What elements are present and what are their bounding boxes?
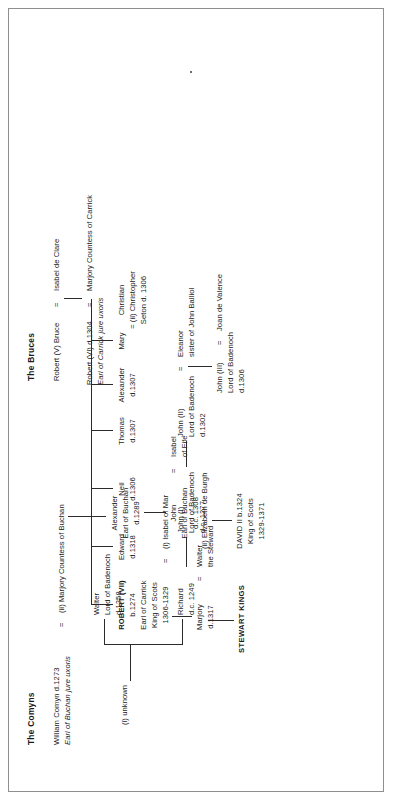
bruces-gen1-marriage-sign: =	[52, 302, 61, 307]
bruces-walter-steward-name: Walter	[195, 545, 204, 567]
comyns-buchan-descent-line	[68, 516, 106, 517]
comyns-john3-death: d.1306	[237, 369, 246, 393]
stewart-kings-label: STEWART KINGS	[237, 585, 246, 653]
comyns-john3-style: Lord of Badenoch	[226, 332, 235, 393]
bruces-marjory-marriage-sign: =	[195, 576, 204, 581]
bruces-child-branch-christian	[91, 340, 113, 341]
bruces-christian-marriage-note-2: Seton d. 1306	[139, 267, 148, 333]
bruces-gen2-name: Robert (VI) d.1304	[85, 321, 94, 385]
bruces-walter-steward-style: the Steward	[206, 526, 215, 567]
rotated-chart-container: The Comyns William Comyn d.1273 Earl of …	[12, 15, 382, 785]
bruces-heading: The Bruces	[26, 333, 36, 381]
bruces-david2-descent-line	[212, 520, 232, 521]
comyns-wife-2-label: (ii) Marjory Countess of Buchan	[57, 504, 66, 613]
comyns-john2-death: d.1302	[198, 413, 207, 437]
bruces-stewart-descent-line	[208, 620, 234, 621]
comyns-patriarch-marriage-sign: =	[57, 622, 66, 627]
bruces-marjory-death: d.1317	[206, 585, 215, 649]
bruces-robert7-name: ROBERT (VII)	[117, 565, 126, 645]
comyns-patriarch-style: Earl of Buchan jure uxoris	[63, 656, 72, 745]
bruces-child-branch-robert	[91, 604, 113, 605]
comyns-john2-to-john3-line	[188, 366, 212, 367]
bruces-robert7-title: King of Scots	[150, 565, 159, 645]
bruces-gen2-marriage-sign: =	[85, 302, 94, 307]
comyns-walter-style: Lord of Badenoch	[103, 554, 112, 615]
comyns-john2-spouse-name: Eleanor	[176, 330, 185, 357]
bruces-gen2-spouse: Marjory Countess of Carrick	[85, 195, 94, 291]
bruces-marjory-descent-line	[172, 616, 192, 617]
bruces-marjory-name: Marjory	[195, 585, 204, 649]
bruces-child-branch-edward	[91, 546, 113, 547]
comyns-john1-style: Lord of Badenoch	[187, 472, 196, 533]
comyns-john2-name: John (II)	[176, 408, 185, 437]
comyns-unknown-spouse-connector	[130, 645, 131, 681]
bruces-gen2-style: Earl of Carrick jure uxoris	[96, 298, 105, 385]
bruces-david2-title: King of Scots	[246, 481, 255, 561]
genealogy-chart: The Comyns William Comyn d.1273 Earl of …	[12, 15, 382, 785]
comyns-john3-name: John (III)	[215, 362, 224, 393]
bruces-gen1-spouse: Isabel de Clare	[52, 239, 61, 291]
bruces-robert7-marriage-sign: =	[161, 558, 170, 563]
comyns-buchan-john-spouse-name: Isabel	[169, 436, 178, 457]
bruces-robert7-reign: 1306-1329	[161, 565, 170, 645]
comyns-richard-branch	[182, 619, 183, 645]
comyns-john2-spouse-style: sister of John Balliol	[187, 288, 196, 357]
comyns-john2-marriage-sign: =	[176, 366, 185, 371]
comyns-john2-style: Lord of Badenoch	[187, 376, 196, 437]
bruces-robert7-born: b.1274	[128, 565, 137, 645]
comyns-john3-spouse-name: Joan de Valence	[215, 274, 224, 331]
bruces-neil-death: d.1306	[128, 459, 137, 519]
bruces-sibling-bar	[91, 299, 92, 605]
bruces-child-branch-mary	[91, 384, 113, 385]
bruces-child-branch-neil	[91, 488, 113, 489]
comyns-john3-marriage-sign: =	[215, 340, 224, 345]
bruces-child-branch-alexander	[91, 430, 113, 431]
comyns-buchan-john-spouse-style: of Fife	[180, 435, 189, 457]
bruces-edward-name: Edward	[117, 517, 126, 577]
bruces-david2-reign: 1329-1371	[257, 481, 266, 561]
comyns-wife-1-label: (i) unknown	[120, 685, 129, 725]
comyns-patriarch-name: William Comyn d.1273	[52, 668, 61, 745]
comyns-buchan-john-marriage-sign: =	[169, 468, 178, 473]
bruces-robert7-wife-1: (i) Isabel of Mar	[161, 495, 170, 549]
bruces-edward-death: d.1318	[128, 517, 137, 577]
comyns-john1-name: John (I)	[176, 507, 185, 533]
bruces-gen1-name: Robert (V) Bruce	[52, 323, 61, 381]
bruces-neil-name: Neil	[117, 459, 126, 519]
comyns-john1-to-john2-line	[186, 441, 187, 467]
comyns-walter-branch	[104, 619, 105, 645]
bruces-alexander-death: d.1307	[128, 355, 137, 415]
comyns-heading: The Comyns	[26, 692, 36, 745]
bruces-christian-marriage-note: = (ii) Christopher	[128, 267, 137, 333]
page-speck-mark	[190, 71, 192, 73]
page-canvas: The Comyns William Comyn d.1273 Earl of …	[0, 0, 394, 800]
bruces-robert7-style: Earl of Carrick	[139, 565, 148, 645]
bruces-gen1-to-gen2-line	[64, 298, 82, 299]
comyns-richard-name: Richard	[176, 588, 185, 615]
comyns-richard-to-john1-line	[186, 537, 187, 567]
bruces-christian-name: Christian	[117, 267, 126, 333]
bruces-david2-name: DAVID II b.1324	[235, 481, 244, 561]
